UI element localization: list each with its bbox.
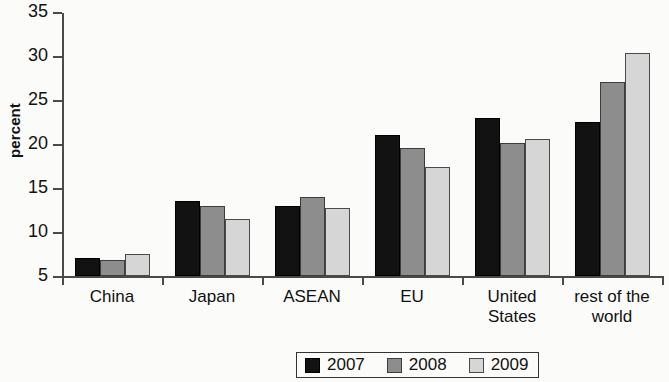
x-axis-label-rest-of-the-world: rest of theworld [562, 287, 662, 327]
x-axis-label-asean: ASEAN [262, 287, 362, 307]
y-axis-tick: 15 [53, 188, 62, 190]
legend-label: 2007 [327, 356, 365, 374]
y-axis-tick-label: 35 [28, 1, 48, 21]
light-gray-square-swatch [469, 358, 484, 373]
y-axis-tick-label: 10 [28, 221, 48, 241]
legend-item-2009[interactable]: 2009 [469, 356, 529, 374]
legend-item-2007[interactable]: 2007 [305, 356, 365, 374]
x-axis-tick [262, 276, 264, 285]
bar-japan-2008 [200, 206, 225, 276]
bar-asean-2009 [325, 208, 350, 276]
y-axis-tick: 25 [53, 100, 62, 102]
y-axis-tick: 20 [53, 144, 62, 146]
y-axis-tick-label: 25 [28, 89, 48, 109]
x-axis-label-japan: Japan [162, 287, 262, 307]
bar-eu-2007 [375, 135, 400, 276]
x-axis-label-line: United [462, 287, 562, 307]
bar-china-2008 [100, 260, 125, 276]
x-axis-label-united-states: UnitedStates [462, 287, 562, 327]
bar-united-states-2009 [525, 139, 550, 276]
y-axis-tick-label: 30 [28, 45, 48, 65]
bar-asean-2008 [300, 197, 325, 276]
legend-label: 2008 [409, 356, 447, 374]
bar-asean-2007 [275, 206, 300, 276]
x-axis-label-line: Japan [162, 287, 262, 307]
bar-eu-2009 [425, 167, 450, 276]
y-axis-line [62, 13, 64, 278]
x-axis-label-line: ASEAN [262, 287, 362, 307]
y-axis-title: percent [6, 91, 23, 171]
y-axis-tick: 30 [53, 56, 62, 58]
x-axis-tick [462, 276, 464, 285]
y-axis-tick-label: 5 [38, 265, 48, 285]
bar-japan-2007 [175, 201, 200, 276]
bar-japan-2009 [225, 219, 250, 276]
y-axis-tick-label: 20 [28, 133, 48, 153]
gray-square-swatch [387, 358, 402, 373]
bar-rest-of-the-world-2008 [600, 82, 625, 276]
x-axis-tick [62, 276, 64, 285]
x-axis-label-china: China [62, 287, 162, 307]
bar-china-2009 [125, 254, 150, 276]
x-axis-tick [562, 276, 564, 285]
black-square-swatch [305, 358, 320, 373]
x-axis-tick [662, 276, 664, 285]
y-axis-tick: 35 [53, 12, 62, 14]
x-axis-label-line: world [562, 307, 662, 327]
bar-chart: percent 5101520253035 ChinaJapanASEANEUU… [0, 0, 669, 382]
legend-label: 2009 [491, 356, 529, 374]
y-axis-tick-label: 15 [28, 177, 48, 197]
x-axis-label-line: States [462, 307, 562, 327]
bar-eu-2008 [400, 148, 425, 276]
bar-rest-of-the-world-2009 [625, 53, 650, 276]
x-axis-tick [162, 276, 164, 285]
bar-united-states-2007 [475, 118, 500, 276]
x-axis-label-line: rest of the [562, 287, 662, 307]
x-axis-label-line: China [62, 287, 162, 307]
chart-legend: 200720082009 [296, 352, 539, 378]
legend-item-2008[interactable]: 2008 [387, 356, 447, 374]
plot-area: 5101520253035 [62, 13, 662, 277]
x-axis-tick [362, 276, 364, 285]
bar-china-2007 [75, 258, 100, 276]
x-axis-label-eu: EU [362, 287, 462, 307]
bar-united-states-2008 [500, 143, 525, 276]
bar-rest-of-the-world-2007 [575, 122, 600, 276]
y-axis-tick: 5 [53, 276, 62, 278]
x-axis-label-line: EU [362, 287, 462, 307]
y-axis-tick: 10 [53, 232, 62, 234]
